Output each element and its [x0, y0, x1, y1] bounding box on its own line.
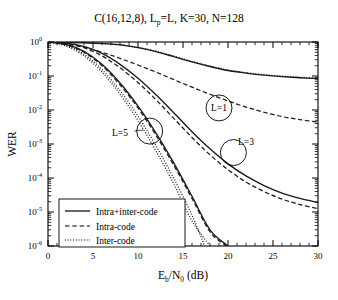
chart-legend: Intra+inter-code Intra-code Inter-code	[59, 199, 185, 247]
legend-label-1: Intra-code	[96, 222, 135, 232]
x-tick-label: 5	[91, 251, 96, 261]
wer-vs-ebn0-chart: C(16,12,8), Lp=L, K=30, N=128 0510152025…	[0, 0, 338, 300]
annotation-label-L1: L=1	[211, 103, 227, 113]
figure-container: C(16,12,8), Lp=L, K=30, N=128 0510152025…	[0, 0, 338, 300]
legend-label-2: Inter-code	[96, 236, 135, 246]
y-axis-label: WER	[6, 131, 18, 157]
x-tick-label: 10	[134, 251, 144, 261]
x-tick-label: 20	[224, 251, 234, 261]
x-tick-label: 30	[314, 251, 324, 261]
annotation-label-L5: L=5	[112, 128, 128, 138]
x-tick-label: 0	[46, 251, 51, 261]
x-tick-label: 15	[179, 251, 189, 261]
legend-label-0: Intra+inter-code	[96, 207, 158, 217]
annotation-label-L3: L=3	[238, 137, 254, 147]
x-tick-label: 25	[269, 251, 279, 261]
